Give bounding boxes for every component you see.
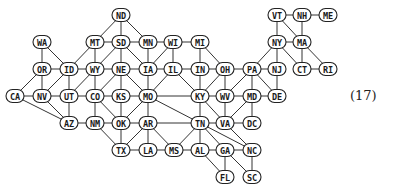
node-mo: MO <box>139 90 157 103</box>
node-wy: WY <box>86 63 104 76</box>
node-nv: NV <box>33 90 51 103</box>
node-ky: KY <box>191 90 209 103</box>
node-az: AZ <box>60 117 78 130</box>
node-label: IL <box>168 65 178 75</box>
node-label: NE <box>116 65 126 75</box>
node-nd: ND <box>112 9 130 22</box>
node-label: MA <box>297 38 307 48</box>
node-label: WA <box>37 38 47 48</box>
node-label: CT <box>297 65 307 75</box>
node-label: KS <box>116 92 126 102</box>
node-ca: CA <box>6 90 24 103</box>
node-label: ND <box>116 11 126 21</box>
node-label: FL <box>220 173 230 183</box>
node-ut: UT <box>60 90 78 103</box>
node-label: AL <box>195 146 205 156</box>
node-ar: AR <box>139 117 157 130</box>
node-label: OK <box>116 119 127 129</box>
node-label: IA <box>143 65 153 75</box>
node-sd: SD <box>112 36 130 49</box>
node-ga: GA <box>216 144 234 157</box>
node-dc: DC <box>243 117 261 130</box>
node-label: AR <box>143 119 154 129</box>
node-wv: WV <box>216 90 234 103</box>
node-label: WV <box>220 92 230 102</box>
node-va: VA <box>216 117 234 130</box>
node-label: MI <box>195 38 205 48</box>
node-label: SC <box>247 173 257 183</box>
node-label: KY <box>195 92 206 102</box>
node-label: CA <box>10 92 20 102</box>
node-wi: WI <box>164 36 182 49</box>
node-tn: TN <box>191 117 209 130</box>
node-label: VT <box>272 11 282 21</box>
node-tx: TX <box>112 144 130 157</box>
node-label: DC <box>247 119 257 129</box>
node-label: NY <box>272 38 283 48</box>
node-nm: NM <box>86 117 104 130</box>
node-label: MN <box>143 38 153 48</box>
node-pa: PA <box>243 63 261 76</box>
node-label: VA <box>220 119 230 129</box>
node-ms: MS <box>165 144 183 157</box>
node-mn: MN <box>139 36 157 49</box>
node-de: DE <box>268 90 286 103</box>
node-label: NM <box>90 119 100 129</box>
node-ne: NE <box>112 63 130 76</box>
node-or: OR <box>33 63 51 76</box>
node-md: MD <box>243 90 261 103</box>
node-label: MS <box>169 146 179 156</box>
node-label: LA <box>143 146 153 156</box>
equation-number-label: (17) <box>350 88 377 103</box>
node-label: ME <box>323 11 333 21</box>
node-label: UT <box>64 92 74 102</box>
node-fl: FL <box>216 171 234 184</box>
node-label: MO <box>143 92 153 102</box>
node-wa: WA <box>33 36 51 49</box>
node-in: IN <box>191 63 209 76</box>
node-label: DE <box>272 92 282 102</box>
node-label: WI <box>168 38 178 48</box>
node-ma: MA <box>293 36 311 49</box>
node-label: TX <box>116 146 126 156</box>
node-co: CO <box>86 90 104 103</box>
node-label: NV <box>37 92 47 102</box>
us-states-adjacency-graph: NDWAMTSDMNWIMIVTNHMENYMAORIDWYNEIAILINOH… <box>0 0 401 188</box>
node-ny: NY <box>268 36 286 49</box>
node-nj: NJ <box>268 63 286 76</box>
node-label: NC <box>247 146 257 156</box>
node-la: LA <box>139 144 157 157</box>
node-al: AL <box>191 144 209 157</box>
node-sc: SC <box>243 171 261 184</box>
node-ct: CT <box>293 63 311 76</box>
node-ia: IA <box>139 63 157 76</box>
node-label: MD <box>247 92 257 102</box>
node-label: OH <box>220 65 230 75</box>
node-label: RI <box>323 65 333 75</box>
node-oh: OH <box>216 63 234 76</box>
node-label: IN <box>195 65 205 75</box>
node-label: OR <box>37 65 48 75</box>
node-nh: NH <box>293 9 311 22</box>
node-label: AZ <box>64 119 74 129</box>
node-label: MT <box>90 38 100 48</box>
node-label: NJ <box>272 65 282 75</box>
node-id: ID <box>60 63 78 76</box>
node-label: ID <box>64 65 74 75</box>
node-label: WY <box>90 65 101 75</box>
node-label: TN <box>195 119 205 129</box>
node-il: IL <box>164 63 182 76</box>
node-nc: NC <box>243 144 261 157</box>
node-ks: KS <box>112 90 130 103</box>
node-ok: OK <box>112 117 130 130</box>
node-label: PA <box>247 65 257 75</box>
node-mi: MI <box>191 36 209 49</box>
node-ri: RI <box>319 63 337 76</box>
node-label: GA <box>220 146 230 156</box>
node-me: ME <box>319 9 337 22</box>
node-vt: VT <box>268 9 286 22</box>
node-label: CO <box>90 92 100 102</box>
node-label: NH <box>297 11 307 21</box>
node-label: SD <box>116 38 126 48</box>
node-mt: MT <box>86 36 104 49</box>
